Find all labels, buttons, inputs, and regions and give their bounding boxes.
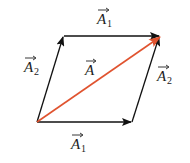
vector-a2-right [132,37,159,122]
svg-text:A: A [156,68,167,84]
svg-text:A: A [23,59,34,75]
vector-a2-left [37,37,63,122]
svg-text:2: 2 [34,66,39,77]
label-right-a2: A 2 [156,65,172,86]
svg-text:1: 1 [107,18,112,29]
svg-text:A: A [84,62,95,78]
label-left-a2: A 2 [23,56,39,77]
svg-text:A: A [96,11,107,27]
vector-diagram: A 1 A 2 A A 2 A 1 [0,0,190,163]
vector-resultant-a [37,37,160,122]
svg-text:2: 2 [167,75,172,86]
svg-text:A: A [70,136,81,152]
label-bottom-a1: A 1 [70,133,86,154]
svg-text:1: 1 [81,143,86,154]
label-top-a1: A 1 [96,8,112,29]
label-center-a: A [84,59,96,78]
